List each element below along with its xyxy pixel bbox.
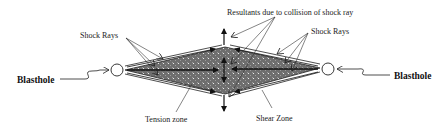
blast-diagram: Blasthole Blasthole Shock Rays Shock Ray…	[0, 0, 448, 131]
tension-zone-label: Tension zone	[145, 115, 188, 124]
blasthole-right-circle	[322, 63, 334, 75]
blasthole-left-circle	[111, 64, 123, 76]
blasthole-left-leader	[60, 70, 109, 79]
resultants-label: Resultants due to collision of shock ray	[227, 8, 353, 17]
blasthole-left-label: Blasthole	[17, 75, 54, 85]
shear-zone-leader	[262, 90, 272, 108]
shock-rays-left-label: Shock Rays	[80, 31, 118, 40]
blasthole-right-leader	[337, 69, 390, 75]
shock-rays-right-label: Shock Rays	[311, 27, 349, 36]
tension-zone-leader	[176, 84, 192, 112]
shear-zone-label: Shear Zone	[256, 114, 293, 123]
blasthole-right-label: Blasthole	[394, 71, 431, 81]
